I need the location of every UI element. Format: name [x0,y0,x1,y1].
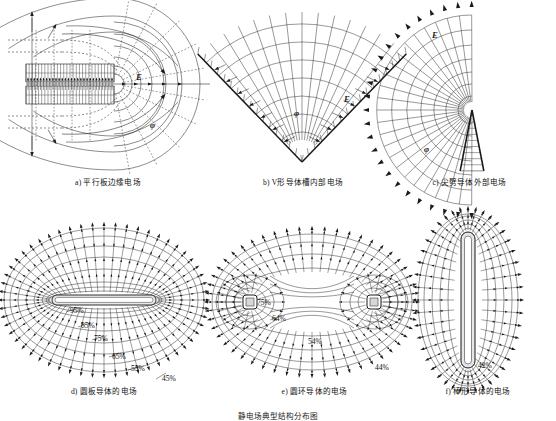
panel-b-group: Eφ [198,12,406,162]
field-arrowhead [78,260,80,263]
field-arrowhead [216,266,220,269]
field-arrowhead [418,274,421,276]
field-arrowhead [518,273,522,276]
field-arrowhead [187,281,190,283]
field-arrowhead [169,302,172,304]
field-arrowhead [48,327,51,330]
field-arrowhead [353,351,355,354]
field-line [417,310,455,313]
field-arrowhead [134,83,138,86]
field-line [397,52,466,105]
field-arrowhead [287,232,289,235]
field-arrowhead [459,207,462,211]
field-arrowhead [300,244,302,247]
field-arrowhead [507,358,511,361]
figure-title: 静电场典型结构分布图 [0,410,556,421]
field-line [275,235,288,274]
field-arrowhead [299,370,301,373]
field-arrowhead [499,255,502,257]
field-arrowhead [234,291,237,293]
field-arrowhead [425,358,429,361]
field-line [424,28,468,103]
field-arrowhead [36,302,39,304]
field-arrowhead [347,366,349,369]
field-arrowhead [456,218,458,221]
field-arrowhead [25,295,28,297]
field-arrowhead [339,301,342,303]
field-arrowhead [197,322,200,324]
field-arrowhead [56,346,58,349]
field-arrowhead [246,276,249,279]
field-arrowhead [29,244,33,248]
field-arrowhead [132,351,134,354]
field-arrowhead [223,318,226,321]
field-arrowhead [68,320,70,323]
field-arrowhead [91,373,94,377]
field-arrowhead [202,307,205,309]
field-line [121,20,180,77]
field-arrowhead [136,262,138,265]
field-arrowhead [222,314,225,316]
field-arrowhead [103,355,105,358]
field-arrowhead [200,274,204,277]
field-line [417,287,455,290]
field-arrowhead [251,360,254,364]
field-arrowhead [74,351,76,354]
field-arrowhead [471,222,473,225]
field-arrowhead [62,279,64,282]
field-arrowhead [343,247,345,250]
field-arrowhead [175,351,179,355]
field-line [123,44,197,80]
field-arrowhead [40,307,43,309]
field-arrowhead [180,295,183,297]
field-arrowhead [323,231,325,234]
field-arrowhead [55,267,57,270]
field-arrowhead [191,293,194,295]
field-arrowhead [266,337,268,340]
panel-e-group: 75%64%54%44% [204,226,420,378]
field-arrowhead [103,258,105,261]
field-arrowhead [193,268,196,270]
field-arrowhead [215,301,218,303]
field-arrowhead [172,316,175,318]
field-line [332,113,339,116]
field-arrowhead [335,228,338,232]
field-arrowhead [3,307,6,309]
field-arrowhead [467,221,469,224]
field-arrowhead [262,365,265,369]
field-arrowhead [260,254,262,257]
field-arrowhead [236,269,239,272]
field-arrowhead [36,296,39,298]
field-arrowhead [240,245,244,249]
rod-electrode-inner [465,236,472,364]
field-arrowhead [74,246,76,249]
field-arrowhead [81,275,83,278]
field-line [255,279,267,294]
field-arrowhead [138,277,140,280]
field-arrowhead [25,303,28,305]
panel-c-wedge: Eφ [390,12,548,172]
field-curve [66,26,178,66]
field-line [368,276,372,293]
field-arrowhead [136,335,138,338]
field-arrowhead [78,337,80,340]
field-line [264,238,282,275]
field-arrowhead [478,218,480,221]
field-arrowhead [215,276,218,278]
field-arrowhead [446,349,449,351]
panel-e-diagram: 75%64%54%44% [212,218,417,378]
field-line [299,332,304,374]
field-arrowhead [147,366,150,370]
field-arrowhead [83,244,85,247]
field-line [243,94,244,101]
field-arrowhead [147,229,150,233]
field-arrowhead [114,222,117,226]
field-arrowhead [367,273,369,276]
field-arrowhead [70,335,72,338]
field-arrowhead [230,327,233,329]
field-arrowhead [165,259,168,262]
percent-label: 44% [375,363,390,372]
panel-d-group: 95%85%75%65%55%45% [0,222,210,383]
field-arrowhead [501,367,505,370]
field-arrowhead [118,323,120,326]
